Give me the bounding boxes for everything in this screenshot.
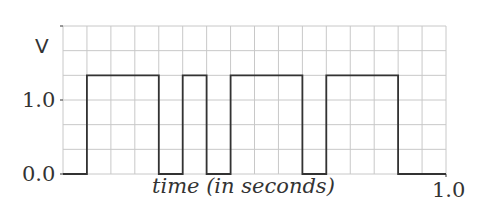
y-axis-unit-label: V: [35, 36, 49, 56]
square-wave-chart: V 1.0 0.0 time (in seconds) 1.0: [0, 0, 478, 216]
grid-lines: [60, 26, 446, 177]
y-tick-label-1: 1.0: [22, 90, 55, 111]
x-axis-title: time (in seconds): [152, 176, 335, 197]
y-tick-label-0: 0.0: [22, 164, 55, 185]
x-tick-label-end: 1.0: [432, 180, 465, 201]
